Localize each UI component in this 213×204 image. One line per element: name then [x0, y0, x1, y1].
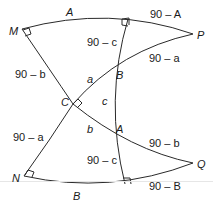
label-left-lower: 90 – a: [13, 132, 44, 143]
point-P: P: [197, 30, 204, 41]
arc-M-P: [22, 18, 193, 34]
point-Q: Q: [197, 159, 206, 170]
label-left-upper: 90 – b: [15, 69, 46, 80]
right-angle-N: [25, 170, 34, 177]
label-side-c: c: [102, 96, 108, 107]
point-B: B: [116, 70, 123, 81]
arc-vertical: [115, 19, 128, 184]
label-bottom-right-arc: 90 – B: [149, 181, 181, 192]
label-side-a: a: [87, 74, 93, 85]
label-top-right-arc: 90 – A: [150, 9, 181, 20]
label-upper-right-diag: 90 – a: [149, 53, 180, 64]
point-A: A: [116, 124, 123, 135]
label-lower-right-diag: 90 – b: [149, 138, 180, 149]
label-top-arc: A: [66, 7, 73, 18]
arc-M-C: [22, 29, 73, 104]
bottom-separator: [0, 181, 213, 182]
point-M: M: [9, 26, 18, 37]
label-lower-vertical: 90 – c: [87, 155, 117, 166]
label-upper-vertical: 90 – c: [87, 37, 117, 48]
label-side-b: b: [87, 124, 93, 135]
right-angle-C: [73, 99, 82, 108]
label-bottom-arc: B: [73, 191, 80, 202]
spherical-triangle-diagram: A 90 – A M P 90 – c 90 – a 90 – b a B C …: [0, 0, 213, 204]
point-C: C: [61, 97, 69, 108]
point-N: N: [12, 173, 20, 184]
